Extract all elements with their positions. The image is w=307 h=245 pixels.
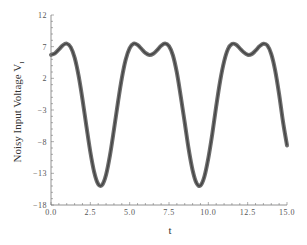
y-tick-label: 2: [43, 74, 48, 83]
x-tick-label: 10.0: [200, 208, 216, 217]
x-tick-label: 5.0: [124, 208, 136, 217]
y-axis-title-subscript: I: [18, 61, 26, 64]
y-tick-label: 12: [38, 11, 47, 20]
data-series-band: [51, 44, 287, 186]
x-tick-label: 0.0: [45, 208, 57, 217]
x-tick-label: 15.0: [279, 208, 295, 217]
y-tick-label: −13: [33, 169, 47, 178]
y-axis: 1272−3−8−13−18: [33, 11, 54, 210]
y-axis-title: Noisy Input Voltage VI: [11, 61, 26, 163]
x-tick-label: 12.5: [240, 208, 256, 217]
y-axis-title-text: Noisy Input Voltage V: [11, 64, 23, 163]
y-tick-label: 7: [43, 43, 48, 52]
x-tick-label: 7.5: [163, 208, 175, 217]
x-axis-title: t: [168, 224, 171, 236]
y-tick-label: −3: [37, 106, 47, 115]
y-tick-label: −8: [37, 138, 47, 147]
x-tick-label: 2.5: [85, 208, 97, 217]
plot-area: [51, 44, 287, 186]
x-axis: 0.02.55.07.510.012.515.0: [45, 202, 295, 217]
line-chart: 1272−3−8−13−18 0.02.55.07.510.012.515.0 …: [0, 0, 307, 245]
